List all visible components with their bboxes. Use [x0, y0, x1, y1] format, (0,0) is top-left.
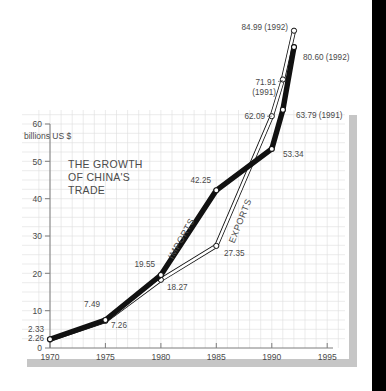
value-label-exports-1985: 27.35 — [224, 249, 245, 258]
y-tick-label-40: 40 — [33, 194, 43, 204]
x-tick-label-1970: 1970 — [41, 352, 60, 362]
chart-canvas: 60 50 40 30 20 10 0 billions US $ 2.33 2… — [0, 0, 386, 391]
x-tick-label-1985: 1985 — [207, 352, 226, 362]
chart-figure: 60 50 40 30 20 10 0 billions US $ 2.33 2… — [0, 0, 386, 391]
y-axis-title: billions US $ — [24, 131, 72, 141]
value-label-exports-1991-value: 71.91 — [256, 78, 277, 87]
y-tick-label-30: 30 — [33, 231, 43, 241]
value-label-imports-1992: 80.60 (1992) — [303, 53, 350, 62]
value-label-exports-1980: 18.27 — [167, 283, 188, 292]
x-axis-ticks — [50, 343, 327, 348]
series-label-imports: IMPORTS — [166, 216, 197, 260]
chart-title-line-3: TRADE — [68, 184, 105, 196]
y-tick-label-10: 10 — [33, 306, 43, 316]
chart-title-line-2: OF CHINA'S — [68, 171, 130, 183]
value-label-exports-1975: 7.26 — [111, 321, 127, 330]
value-label-exports-1992: 84.99 (1992) — [242, 23, 289, 32]
x-tick-label-1980: 1980 — [151, 352, 170, 362]
y-tick-label-20: 20 — [33, 269, 43, 279]
value-label-imports-1985: 42.25 — [191, 176, 212, 185]
x-tick-label-1975: 1975 — [96, 352, 115, 362]
y-tick-label-60: 60 — [33, 119, 43, 129]
x-tick-label-1990: 1990 — [262, 352, 281, 362]
chart-title-line-1: THE GROWTH — [68, 158, 143, 170]
value-label-imports-1991: 63.79 (1991) — [296, 111, 343, 120]
value-label-exports-1970: 2.26 — [28, 334, 44, 343]
y-tick-label-50: 50 — [33, 157, 43, 167]
value-label-exports-1991-year: (1991) — [252, 88, 276, 97]
y-axis-ticks — [45, 124, 50, 348]
value-label-imports-1975: 7.49 — [84, 300, 100, 309]
value-label-exports-1990: 62.09 — [245, 112, 266, 121]
x-tick-label-1995: 1995 — [318, 352, 337, 362]
value-label-imports-1980: 19.55 — [135, 260, 156, 269]
value-label-imports-1990: 53.34 — [283, 150, 304, 159]
value-label-imports-1970: 2.33 — [28, 325, 44, 334]
